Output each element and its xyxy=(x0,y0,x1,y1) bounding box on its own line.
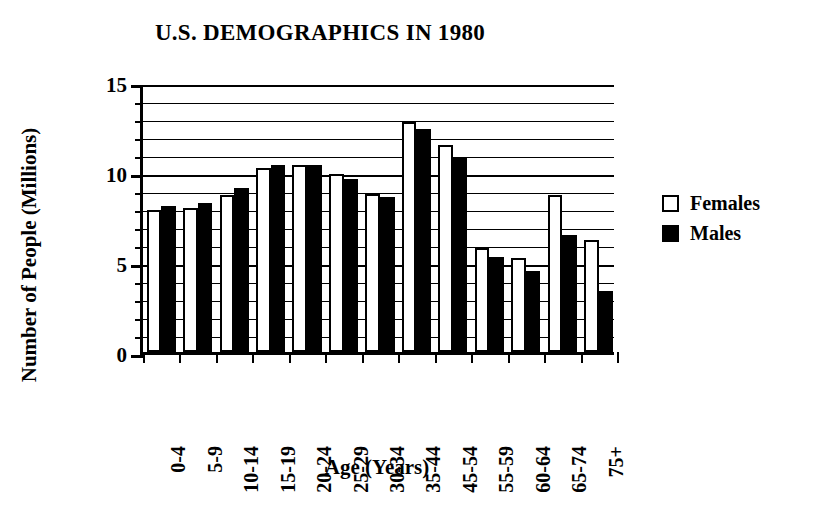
y-tick-label: 0 xyxy=(117,343,128,368)
legend: Females Males xyxy=(662,190,760,250)
legend-swatch-females-icon xyxy=(662,195,679,212)
legend-swatch-males-icon xyxy=(662,225,679,242)
x-tick xyxy=(216,352,218,363)
bar xyxy=(292,165,307,352)
y-tick-minor xyxy=(135,301,143,303)
y-tick-major xyxy=(131,85,143,88)
y-tick-minor xyxy=(135,157,143,159)
x-tick xyxy=(544,352,546,363)
bar-group xyxy=(402,85,431,352)
y-tick-minor xyxy=(135,229,143,231)
x-tick xyxy=(435,352,437,363)
legend-label-males: Males xyxy=(690,222,741,245)
y-tick-minor xyxy=(135,283,143,285)
y-tick-minor xyxy=(135,121,143,123)
y-tick-label: 15 xyxy=(106,73,127,98)
y-tick-minor xyxy=(135,211,143,213)
bar xyxy=(548,195,563,352)
bar-group xyxy=(548,85,577,352)
bar-group xyxy=(292,85,321,352)
x-tick xyxy=(179,352,181,363)
y-tick-label: 10 xyxy=(106,163,127,188)
bar-group xyxy=(438,85,467,352)
bars-layer xyxy=(143,85,614,352)
y-tick-minor xyxy=(135,319,143,321)
y-tick-minor xyxy=(135,103,143,105)
y-axis-title: Number of People (Millions) xyxy=(12,55,46,455)
bar xyxy=(489,257,504,352)
bar xyxy=(526,271,541,352)
legend-label-females: Females xyxy=(690,192,760,215)
bar xyxy=(562,235,577,352)
x-tick xyxy=(508,352,510,363)
bar-group xyxy=(329,85,358,352)
bar-group xyxy=(475,85,504,352)
bar xyxy=(344,179,359,352)
x-tick xyxy=(289,352,291,363)
x-axis-category-labels: 0-45-910-1415-1920-2425-2930-3435-4445-5… xyxy=(140,368,614,448)
y-tick-minor xyxy=(135,193,143,195)
y-tick-major xyxy=(131,175,143,178)
x-axis-title: Age (Years) xyxy=(140,455,614,480)
bar xyxy=(511,258,526,352)
bar xyxy=(402,122,417,352)
x-tick xyxy=(325,352,327,363)
chart-title: U.S. DEMOGRAPHICS IN 1980 xyxy=(0,20,640,46)
bar xyxy=(271,165,286,352)
y-axis-title-container: Number of People (Millions) xyxy=(14,55,48,455)
bar-group xyxy=(511,85,540,352)
bar-group xyxy=(256,85,285,352)
bar-group xyxy=(183,85,212,352)
bar xyxy=(453,158,468,352)
x-tick xyxy=(143,352,145,363)
x-tick xyxy=(252,352,254,363)
y-tick-label: 5 xyxy=(117,253,128,278)
bar xyxy=(256,168,271,352)
y-tick-minor xyxy=(135,139,143,141)
bar xyxy=(475,248,490,352)
bar xyxy=(365,194,380,352)
bar-group xyxy=(220,85,249,352)
bar xyxy=(220,195,235,352)
bar xyxy=(438,145,453,352)
bar-group xyxy=(365,85,394,352)
bar xyxy=(234,188,249,352)
bar xyxy=(329,174,344,352)
bar-group xyxy=(584,85,613,352)
bar-group xyxy=(147,85,176,352)
bar xyxy=(599,291,614,352)
x-tick xyxy=(581,352,583,363)
chart-figure: U.S. DEMOGRAPHICS IN 1980 Number of Peop… xyxy=(0,0,823,505)
bar xyxy=(147,210,162,352)
bar xyxy=(584,240,599,352)
x-tick xyxy=(617,352,619,363)
y-tick-minor xyxy=(135,247,143,249)
bar xyxy=(161,206,176,352)
bar xyxy=(380,197,395,352)
x-tick xyxy=(362,352,364,363)
plot-area: 051015 xyxy=(140,85,614,355)
y-tick-minor xyxy=(135,337,143,339)
bar xyxy=(183,208,198,352)
x-tick xyxy=(398,352,400,363)
bar xyxy=(416,129,431,352)
y-tick-major xyxy=(131,265,143,268)
bar xyxy=(307,165,322,352)
x-tick xyxy=(471,352,473,363)
legend-item-males: Males xyxy=(662,220,760,246)
y-tick-major xyxy=(131,355,143,358)
bar xyxy=(198,203,213,352)
legend-item-females: Females xyxy=(662,190,760,216)
